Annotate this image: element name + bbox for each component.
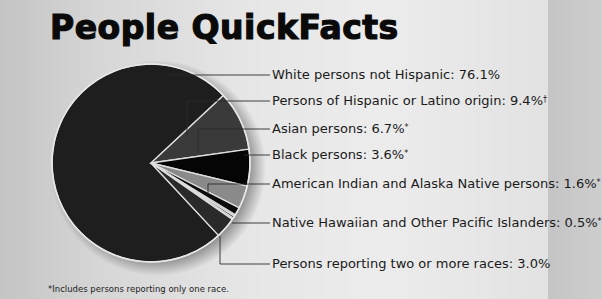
legend-label-asian: Asian persons: 6.7%* — [272, 122, 409, 136]
legend-label-two-or-more: Persons reporting two or more races: 3.0… — [272, 257, 550, 271]
legend-label-white: White persons not Hispanic: 76.1% — [272, 68, 500, 82]
legend-label-american-indian: American Indian and Alaska Native person… — [272, 177, 601, 191]
legend-label-hispanic: Persons of Hispanic or Latino origin: 9.… — [272, 94, 547, 108]
legend-label-native-hawaiian: Native Hawaiian and Other Pacific Island… — [272, 216, 602, 230]
footnote: *Includes persons reporting only one rac… — [48, 284, 229, 294]
pie-slices — [52, 64, 250, 262]
legend-label-black: Black persons: 3.6%* — [272, 148, 408, 162]
